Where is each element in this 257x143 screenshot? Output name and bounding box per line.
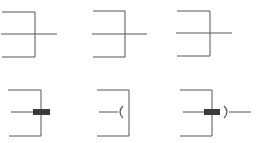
plug-block <box>204 109 220 115</box>
plug-block <box>33 109 50 115</box>
symbol-5-socket <box>97 90 129 136</box>
symbol-3-plain-cross <box>176 11 232 56</box>
bracket <box>97 90 129 136</box>
socket-arc <box>120 106 123 118</box>
diagram-canvas <box>0 0 257 143</box>
socket-arc <box>224 106 227 118</box>
symbol-2-plain-cross <box>92 11 147 57</box>
symbol-6-plug-and-socket <box>180 90 251 136</box>
symbol-4-component-plug <box>8 90 50 136</box>
symbol-1-plain-cross <box>1 12 57 57</box>
